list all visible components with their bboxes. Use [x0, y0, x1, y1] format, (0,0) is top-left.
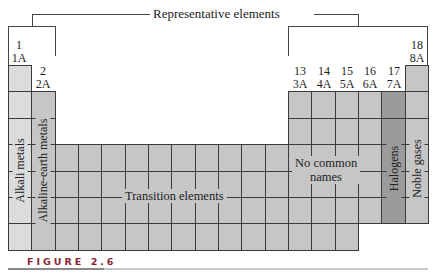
element-cell [8, 65, 32, 92]
group-label-14: 144A [312, 65, 336, 91]
element-cell [288, 91, 312, 118]
group-label-2: 22A [31, 65, 55, 91]
element-cell [148, 144, 172, 171]
transition-elements-label: Transition elements [122, 189, 227, 203]
element-cell [311, 197, 335, 224]
element-cell [381, 91, 405, 118]
element-cell [311, 91, 335, 118]
element-cell [101, 144, 125, 171]
element-cell [171, 223, 195, 250]
element-cell [78, 197, 102, 224]
element-cell [78, 171, 102, 198]
element-cell [195, 223, 219, 250]
element-cell [358, 171, 382, 198]
element-cell [265, 171, 289, 198]
element-cell [101, 223, 125, 250]
element-cell [241, 171, 265, 198]
title-label: Representative elements [153, 6, 280, 22]
element-cell [55, 223, 79, 250]
bracket-right-cap [288, 26, 428, 27]
group-label-18: 188A [405, 39, 429, 65]
element-cell [78, 223, 102, 250]
bracket-top-right-line [314, 14, 359, 15]
no-common-names-label: No commonnames [292, 156, 360, 184]
element-cell [335, 197, 359, 224]
element-cell [8, 223, 32, 250]
figure-label: FIGURE 2.6 [27, 256, 116, 267]
element-cell [335, 91, 359, 118]
element-cell [335, 223, 359, 250]
alkaline-earth-metals-label: Alkaline-earth metals [36, 106, 51, 236]
group-label-15: 155A [335, 65, 359, 91]
element-cell [288, 118, 312, 145]
element-cell [335, 118, 359, 145]
element-cell [171, 144, 195, 171]
bracket-top-left-line [32, 14, 150, 15]
bracket-right-cap-l [288, 26, 289, 56]
element-cell [288, 223, 312, 250]
bracket-left-stem [32, 14, 33, 26]
element-cell [381, 197, 405, 224]
element-cell [288, 197, 312, 224]
group-label-16: 166A [358, 65, 382, 91]
bracket-left-cap [8, 26, 55, 27]
element-cell [125, 223, 149, 250]
element-cell [218, 144, 242, 171]
element-cell [265, 197, 289, 224]
element-cell [265, 223, 289, 250]
bracket-left-cap-r [55, 26, 56, 56]
element-cell [125, 144, 149, 171]
group-label-1: 11A [7, 39, 31, 65]
element-cell [265, 144, 289, 171]
element-cell [241, 144, 265, 171]
element-cell [405, 91, 429, 118]
element-cell [358, 144, 382, 171]
element-cell [195, 144, 219, 171]
noble-gases-label: Noble gases [410, 134, 425, 204]
bracket-right-stem [358, 14, 359, 26]
element-cell [358, 91, 382, 118]
element-cell [55, 144, 79, 171]
group-label-17: 177A [382, 65, 406, 91]
element-cell [55, 197, 79, 224]
figure-underline-light [104, 268, 428, 270]
element-cell [241, 223, 265, 250]
element-cell [405, 65, 429, 92]
element-cell [55, 171, 79, 198]
element-cell [78, 144, 102, 171]
element-cell [241, 197, 265, 224]
halogens-label: Halogens [387, 138, 402, 200]
element-cell [218, 223, 242, 250]
element-cell [311, 223, 335, 250]
alkali-metals-label: Alkali metals [13, 121, 28, 221]
element-cell [148, 223, 172, 250]
element-cell [358, 118, 382, 145]
element-cell [311, 118, 335, 145]
group-label-13: 133A [288, 65, 312, 91]
element-cell [358, 197, 382, 224]
element-cell [8, 91, 32, 118]
figure-underline-dark [8, 268, 104, 270]
